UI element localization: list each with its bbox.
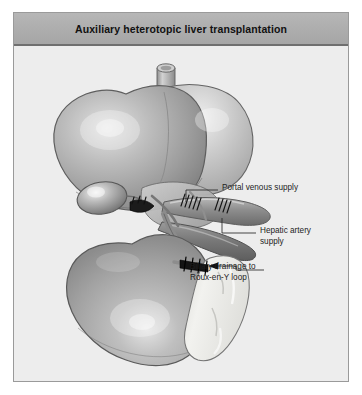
- callout-biliary-line-1: Biliary drainage to: [190, 262, 256, 273]
- native-liver-highlight-core: [96, 119, 124, 137]
- callout-hepatic-line-1: Hepatic artery: [260, 226, 311, 237]
- callout-hepatic-line-2: supply: [260, 237, 311, 248]
- figure-title: Auxiliary heterotopic liver transplantat…: [75, 23, 287, 35]
- native-liver-right-highlight: [195, 108, 229, 132]
- figure-panel: Auxiliary heterotopic liver transplantat…: [13, 12, 349, 382]
- graft-upper-sheen: [96, 252, 140, 272]
- graft-highlight-core: [129, 314, 155, 330]
- callout-biliary-line-2: Roux-en-Y loop: [190, 273, 256, 284]
- callout-biliary-drainage: Biliary drainage to Roux-en-Y loop: [190, 262, 256, 283]
- anatomy-illustration: [14, 46, 348, 381]
- callout-portal-venous-supply: Portal venous supply: [222, 183, 298, 194]
- figure-title-bar: Auxiliary heterotopic liver transplantat…: [14, 13, 348, 46]
- illustration-canvas: [14, 46, 348, 381]
- callout-portal-line-1: Portal venous supply: [222, 183, 298, 194]
- gallbladder-highlight: [87, 187, 105, 198]
- callout-hepatic-artery-supply: Hepatic artery supply: [260, 226, 311, 247]
